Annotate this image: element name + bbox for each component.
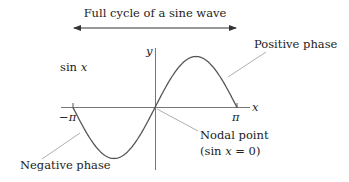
positive-phase-leader (228, 52, 266, 77)
tick-label-neg-pi: −π (59, 110, 77, 124)
function-label: sin x (60, 60, 88, 74)
nodal-point-leader (157, 109, 198, 131)
nodal-point-label: Nodal point (200, 128, 269, 142)
diagram-title: Full cycle of a sine wave (84, 6, 227, 20)
nodal-condition-label: (sin x = 0) (200, 144, 260, 158)
positive-phase-label: Positive phase (254, 37, 338, 51)
x-axis-label: x (252, 100, 259, 114)
y-axis-label: y (145, 44, 153, 58)
negative-phase-leader (42, 133, 80, 159)
negative-phase-label: Negative phase (20, 158, 111, 172)
sine-wave-diagram: Full cycle of a sine wave x y −π π sin x… (0, 0, 349, 182)
tick-label-pi: π (231, 110, 240, 124)
